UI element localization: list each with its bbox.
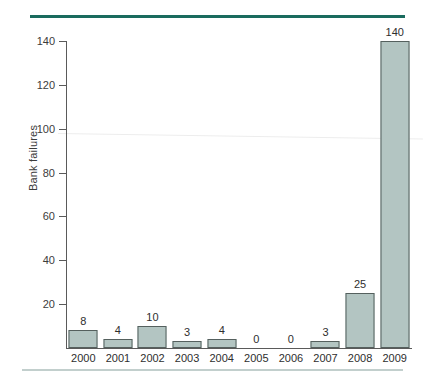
y-axis-tick-label: 140: [3, 35, 55, 47]
y-axis-tick-label: 80: [3, 167, 55, 179]
bar-slot: 3: [170, 41, 205, 348]
x-axis-tick-label: 2002: [140, 352, 164, 364]
bar[interactable]: [173, 341, 202, 348]
bar-slot: 0: [274, 41, 309, 348]
x-axis-tick-label: 2004: [209, 352, 233, 364]
bar-value-label: 140: [386, 26, 404, 38]
bar[interactable]: [103, 339, 132, 348]
bar[interactable]: [380, 41, 409, 348]
bars-layer: 84103400325140: [66, 41, 412, 348]
bar-value-label: 0: [288, 333, 294, 345]
x-axis-tick-label: 2000: [71, 352, 95, 364]
bar-slot: 140: [377, 41, 412, 348]
bar[interactable]: [207, 339, 236, 348]
bank-failures-bar-chart: Bank failures 20406080100120140 84103400…: [0, 0, 425, 386]
bar-slot: 0: [239, 41, 274, 348]
bar[interactable]: [69, 330, 98, 348]
x-axis-tick-label: 2005: [244, 352, 268, 364]
x-axis-tick-label: 2007: [313, 352, 337, 364]
bar-value-label: 10: [146, 311, 158, 323]
y-axis-tick-label: 40: [3, 254, 55, 266]
bar-value-label: 25: [354, 278, 366, 290]
x-axis-tick-label: 2006: [279, 352, 303, 364]
x-axis-tick-label: 2001: [106, 352, 130, 364]
y-axis-tick-label: 60: [3, 210, 55, 222]
bar[interactable]: [311, 341, 340, 348]
bar-value-label: 3: [184, 326, 190, 338]
bar-slot: 4: [101, 41, 136, 348]
bar-slot: 3: [308, 41, 343, 348]
bar-value-label: 0: [253, 333, 259, 345]
bar-value-label: 4: [115, 324, 121, 336]
bar-value-label: 3: [322, 326, 328, 338]
x-axis-tick-label: 2008: [348, 352, 372, 364]
bar-value-label: 8: [80, 315, 86, 327]
bar[interactable]: [346, 293, 375, 348]
y-axis-title: Bank failures: [27, 103, 39, 213]
bar-slot: 4: [204, 41, 239, 348]
y-axis-tick-label: 100: [3, 123, 55, 135]
x-axis-tick-label: 2003: [175, 352, 199, 364]
x-axis-tick-label: 2009: [382, 352, 406, 364]
x-axis-line: [66, 348, 412, 349]
y-axis-tick-label: 120: [3, 79, 55, 91]
chart-page: Bank failures 20406080100120140 84103400…: [0, 0, 425, 386]
bar-slot: 8: [66, 41, 101, 348]
y-axis-tick-label: 20: [3, 298, 55, 310]
bar-slot: 10: [135, 41, 170, 348]
bar[interactable]: [138, 326, 167, 348]
bar-slot: 25: [343, 41, 378, 348]
bar-value-label: 4: [219, 324, 225, 336]
